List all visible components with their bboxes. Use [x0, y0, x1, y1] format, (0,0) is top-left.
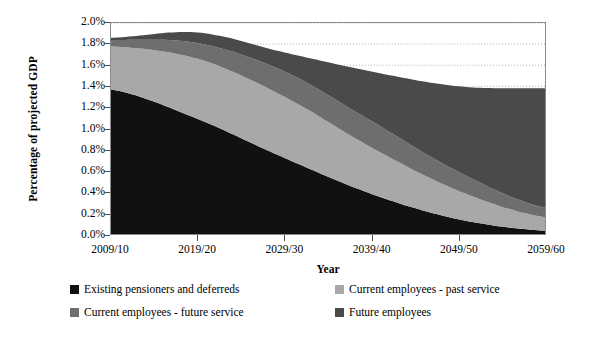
y-tick-label: 1.8%: [59, 37, 105, 49]
x-axis-title: Year: [110, 263, 546, 275]
legend-item[interactable]: Existing pensioners and deferreds: [70, 283, 240, 296]
y-tick-label: 0.4%: [59, 186, 105, 198]
x-tick-label: 2019/20: [152, 243, 242, 255]
y-axis-title: Percentage of projected GDP: [27, 19, 39, 239]
y-tick-label: 1.4%: [59, 80, 105, 92]
legend-swatch-icon: [335, 285, 344, 294]
x-tick-mark: [372, 235, 373, 241]
y-tick-label: 0.8%: [59, 144, 105, 156]
legend-item[interactable]: Current employees - future service: [70, 306, 244, 319]
series-areas: [111, 32, 545, 234]
legend-label: Existing pensioners and deferreds: [84, 283, 240, 296]
x-tick-mark: [459, 235, 460, 241]
y-tick-label: 0.6%: [59, 165, 105, 177]
y-tick-label: 1.2%: [59, 101, 105, 113]
x-tick-label: 2009/10: [65, 243, 155, 255]
legend-label: Current employees - future service: [84, 306, 244, 319]
y-tick-label: 0.2%: [59, 208, 105, 220]
y-tick-label: 0.0%: [59, 229, 105, 241]
x-tick-mark: [197, 235, 198, 241]
legend-item[interactable]: Current employees - past service: [335, 283, 500, 296]
legend-swatch-icon: [70, 308, 79, 317]
plot-svg: [111, 23, 545, 234]
legend-item[interactable]: Future employees: [335, 306, 431, 319]
x-tick-label: 2059/60: [501, 243, 591, 255]
x-tick-label: 2029/30: [239, 243, 329, 255]
chart-legend: Existing pensioners and deferredsCurrent…: [70, 283, 570, 333]
legend-label: Future employees: [349, 306, 431, 319]
x-tick-mark: [284, 235, 285, 241]
legend-label: Current employees - past service: [349, 283, 500, 296]
y-tick-label: 1.6%: [59, 59, 105, 71]
stacked-area-chart: Percentage of projected GDP 0.0%0.2%0.4%…: [0, 0, 592, 344]
x-tick-label: 2039/40: [327, 243, 417, 255]
y-tick-label: 2.0%: [59, 16, 105, 28]
legend-swatch-icon: [335, 308, 344, 317]
y-tick-mark: [104, 235, 110, 236]
plot-area: [110, 22, 546, 235]
x-tick-label: 2049/50: [414, 243, 504, 255]
legend-swatch-icon: [70, 285, 79, 294]
y-tick-label: 1.0%: [59, 123, 105, 135]
